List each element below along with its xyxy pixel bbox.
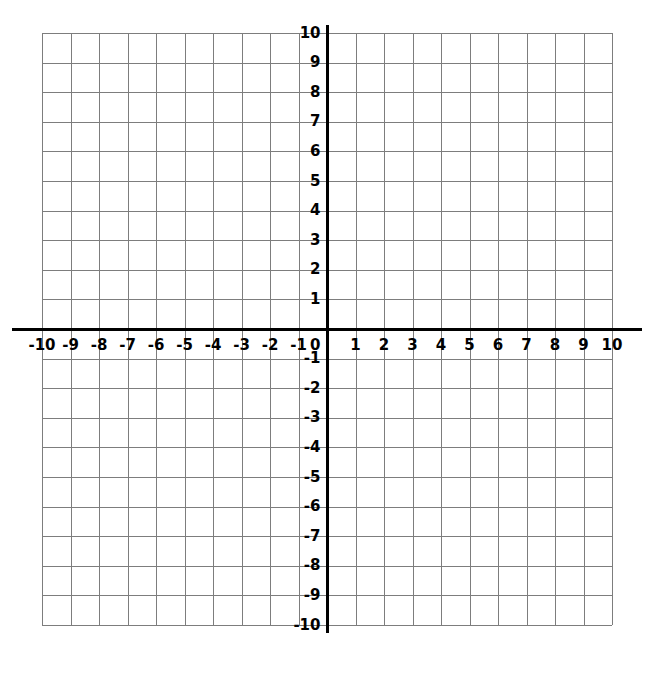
- x-tick-label-2: 2: [379, 336, 389, 354]
- x-tick-label--3: -3: [233, 336, 250, 354]
- coordinate-plane-figure: -10-9-8-7-6-5-4-3-2-112345678910 1098765…: [0, 0, 647, 675]
- y-tick-label-7: 7: [310, 112, 320, 130]
- origin-label-group: 0: [310, 336, 320, 354]
- x-tick-label-8: 8: [550, 336, 560, 354]
- y-tick-label-4: 4: [310, 201, 320, 219]
- coordinate-grid-svg: -10-9-8-7-6-5-4-3-2-112345678910 1098765…: [0, 0, 647, 675]
- x-tick-label-4: 4: [436, 336, 446, 354]
- x-tick-label-1: 1: [350, 336, 360, 354]
- y-tick-label-8: 8: [310, 83, 320, 101]
- y-tick-label-9: 9: [310, 53, 320, 71]
- x-tick-label--10: -10: [28, 336, 55, 354]
- x-tick-label--6: -6: [148, 336, 165, 354]
- y-tick-label--9: -9: [304, 586, 321, 604]
- x-tick-label--9: -9: [62, 336, 79, 354]
- x-tick-label-6: 6: [493, 336, 503, 354]
- y-tick-label--3: -3: [304, 408, 321, 426]
- origin-tick-label: 0: [310, 336, 320, 354]
- x-tick-label-10: 10: [602, 336, 623, 354]
- y-tick-label--10: -10: [293, 616, 320, 634]
- y-tick-label--5: -5: [304, 468, 321, 486]
- y-tick-label-5: 5: [310, 172, 320, 190]
- y-tick-label-2: 2: [310, 260, 320, 278]
- y-tick-label--6: -6: [304, 497, 321, 515]
- y-tick-label-3: 3: [310, 231, 320, 249]
- y-tick-label--7: -7: [304, 527, 321, 545]
- x-tick-label-5: 5: [464, 336, 474, 354]
- x-tick-label--8: -8: [91, 336, 108, 354]
- y-tick-label--8: -8: [304, 556, 321, 574]
- y-tick-label--4: -4: [304, 438, 321, 456]
- x-tick-label--7: -7: [119, 336, 136, 354]
- x-tick-label--5: -5: [176, 336, 193, 354]
- x-tick-label-3: 3: [407, 336, 417, 354]
- y-tick-label-10: 10: [300, 24, 321, 42]
- x-tick-label-9: 9: [578, 336, 588, 354]
- x-tick-label--4: -4: [205, 336, 222, 354]
- y-tick-label-1: 1: [310, 290, 320, 308]
- y-tick-label--2: -2: [304, 379, 321, 397]
- x-tick-label-7: 7: [521, 336, 531, 354]
- y-tick-label-6: 6: [310, 142, 320, 160]
- axes-group: [12, 25, 642, 633]
- x-tick-label--2: -2: [262, 336, 279, 354]
- x-axis-tick-labels-group: -10-9-8-7-6-5-4-3-2-112345678910: [28, 336, 622, 354]
